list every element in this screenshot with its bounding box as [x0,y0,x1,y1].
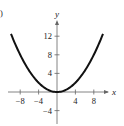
y-tick-label: 12 [44,31,53,41]
y-tick-label: 8 [48,50,52,60]
x-axis-label: x [111,87,116,97]
x-tick-label: 4 [73,96,78,106]
y-axis [55,20,59,124]
x-tick-label: −4 [34,96,44,106]
y-axis-arrow-icon [55,20,59,25]
x-axis-arrow-icon [104,90,109,94]
parabola-chart: ) x y −8−448 1284−4 [0,0,124,126]
panel-label: ) [0,8,3,18]
x-tick-label: 8 [92,96,96,106]
y-tick-label: 4 [48,68,53,78]
x-tick-label: −8 [16,96,25,106]
y-tick-label: −4 [43,106,53,116]
y-axis-label: y [54,9,59,19]
